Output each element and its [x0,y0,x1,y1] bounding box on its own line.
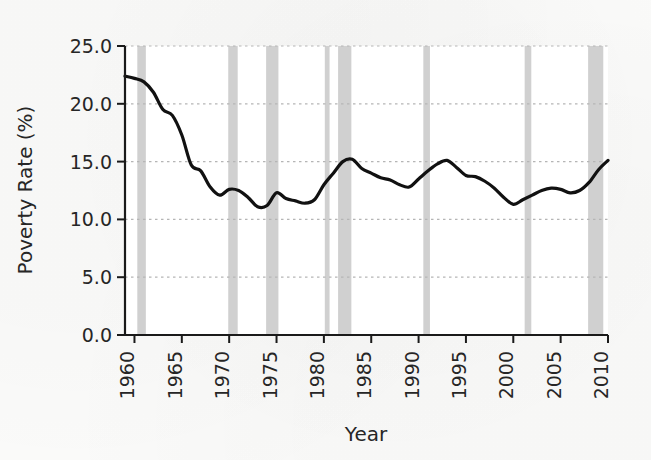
x-tick-label: 2010 [590,351,612,399]
y-tick-labels-group: 0.05.010.015.020.025.0 [70,35,112,346]
y-tick-marks-group [117,46,125,335]
recession-band [338,46,351,335]
x-tick-label: 2005 [543,351,565,399]
y-axis-label: Poverty Rate (%) [13,106,37,275]
y-tick-label: 10.0 [70,208,112,230]
plot-area-background [125,46,608,335]
chart-figure: 0.05.010.015.020.025.0 19601965197019751… [0,0,651,460]
x-tick-label: 1965 [164,351,186,399]
poverty-rate-line-chart: 0.05.010.015.020.025.0 19601965197019751… [0,0,651,460]
y-tick-label: 20.0 [70,93,112,115]
x-tick-label: 1990 [401,351,423,399]
recession-band [325,46,330,335]
x-tick-marks-group [134,335,608,343]
x-tick-label: 1960 [116,351,138,399]
recession-band [423,46,430,335]
x-tick-label: 1985 [353,351,375,399]
y-tick-label: 0.0 [82,324,112,346]
x-tick-label: 2000 [495,351,517,399]
recession-band [525,46,532,335]
x-tick-label: 1970 [211,351,233,399]
x-tick-label: 1980 [306,351,328,399]
recession-band [137,46,146,335]
recession-band [588,46,603,335]
x-tick-labels-group: 1960196519701975198019851990199520002005… [116,351,612,399]
x-tick-label: 1995 [448,351,470,399]
y-tick-label: 25.0 [70,35,112,57]
y-tick-label: 5.0 [82,266,112,288]
x-tick-label: 1975 [259,351,281,399]
y-tick-label: 15.0 [70,151,112,173]
x-axis-label: Year [344,422,388,446]
recession-band [266,46,278,335]
